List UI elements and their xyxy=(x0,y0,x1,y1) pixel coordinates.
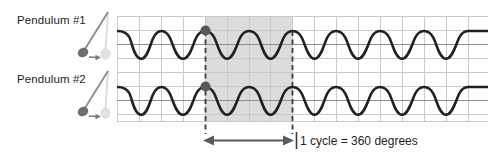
pendulum2-motion-arrow xyxy=(89,114,101,119)
pendulum2-ghost-rod xyxy=(106,71,109,109)
pendulum1-rod xyxy=(85,12,108,49)
pendulum2-rod xyxy=(85,71,108,108)
cycle-measure-arrow xyxy=(203,136,294,146)
pendulum2-ghost-bob xyxy=(101,108,110,118)
pendulum1-ghost-rod xyxy=(106,12,109,50)
pendulum2-bob xyxy=(76,105,90,118)
pendulum2-label: Pendulum #2 xyxy=(17,73,86,85)
phase-marker-pendulum2 xyxy=(200,81,210,91)
grid-horizontal-lines xyxy=(117,17,488,122)
pendulum1-motion-arrow xyxy=(89,55,101,60)
pendulum1-label: Pendulum #1 xyxy=(17,14,86,26)
figure-canvas: Pendulum #1 Pendulum #2 1 cycle = 360 de… xyxy=(0,0,488,165)
pendulum1-bob xyxy=(76,46,90,59)
phase-marker-pendulum1 xyxy=(200,25,210,35)
pendulum1-ghost-bob xyxy=(101,49,110,59)
cycle-annotation-label: 1 cycle = 360 degrees xyxy=(300,134,418,148)
